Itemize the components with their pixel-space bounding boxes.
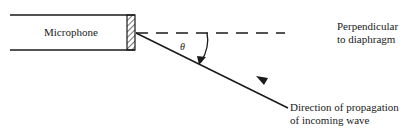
perpendicular-label-line2: to diaphragm [337, 33, 395, 46]
microphone-angle-diagram: Microphone θ Perpendicular to diaphragm … [0, 0, 414, 130]
propagation-label-line1: Direction of propagation [290, 101, 399, 114]
angle-theta-label: θ [180, 40, 185, 53]
propagation-line [136, 33, 288, 108]
microphone-label: Microphone [44, 26, 98, 39]
diaphragm [127, 15, 135, 50]
propagation-label-line2: of incoming wave [290, 114, 369, 127]
perpendicular-label-line1: Perpendicular [337, 20, 398, 33]
propagation-arrow-icon [256, 76, 268, 85]
